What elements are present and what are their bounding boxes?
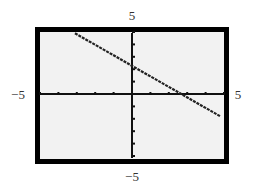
y-min-label: −5 [125, 170, 139, 183]
graph-canvas [0, 0, 254, 187]
x-max-label: 5 [235, 88, 242, 101]
y-max-label: 5 [129, 9, 136, 22]
x-min-label: −5 [11, 88, 25, 101]
